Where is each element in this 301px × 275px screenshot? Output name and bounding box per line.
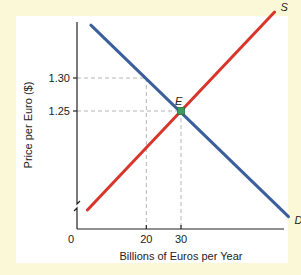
supply-curve-label: S xyxy=(281,1,289,13)
chart-svg: SDE 1.301.2502030 Billions of Euros per … xyxy=(0,0,301,275)
demand-curve-label: D xyxy=(294,214,301,226)
x-tick-label: 30 xyxy=(175,233,187,245)
x-tick-label: 20 xyxy=(140,233,152,245)
demand-curve xyxy=(91,25,289,216)
equilibrium-point xyxy=(178,108,185,115)
y-tick-label: 1.25 xyxy=(49,105,70,117)
y-tick-label: 1.30 xyxy=(49,72,70,84)
y-axis-break xyxy=(74,200,80,229)
x-axis-title: Billions of Euros per Year xyxy=(120,250,243,262)
y-axis-title: Price per Euro ($) xyxy=(22,82,34,169)
equilibrium-label: E xyxy=(175,95,183,107)
x-tick-label: 0 xyxy=(68,233,74,245)
